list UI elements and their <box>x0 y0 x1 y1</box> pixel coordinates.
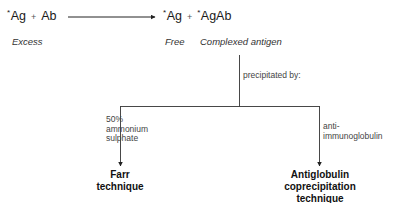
reactants: *Ag+Ab <box>7 9 56 23</box>
antibody-label: Ab <box>41 9 56 23</box>
complex-label: AgAb <box>201 9 232 23</box>
caption-excess: Excess <box>12 36 43 47</box>
technique-line: Antiglobulin <box>265 169 375 181</box>
reagent-line: sulphate <box>106 134 148 144</box>
products: *Ag+*AgAb <box>163 9 231 23</box>
left-reagent-label: 50% ammonium sulphate <box>106 115 148 144</box>
antigen-label: Ag <box>11 9 26 23</box>
right-reagent-label: anti- immunoglobulin <box>323 122 383 141</box>
technique-line: technique <box>265 193 375 203</box>
label-star: * <box>197 8 200 17</box>
technique-line: Farr <box>80 169 160 181</box>
plus-sign: + <box>31 12 36 22</box>
technique-line: coprecipitation <box>265 181 375 193</box>
farr-technique-label: Farr technique <box>80 169 160 193</box>
branch-label: precipitated by: <box>243 71 301 81</box>
caption-free: Free <box>165 36 185 47</box>
caption-complexed: Complexed antigen <box>200 36 282 47</box>
label-star: * <box>7 8 10 17</box>
free-antigen-label: Ag <box>167 9 182 23</box>
technique-line: technique <box>80 181 160 193</box>
reagent-line: immunoglobulin <box>323 132 383 142</box>
antiglobulin-technique-label: Antiglobulin coprecipitation technique <box>265 169 375 203</box>
plus-sign: + <box>187 12 192 22</box>
label-star: * <box>163 8 166 17</box>
